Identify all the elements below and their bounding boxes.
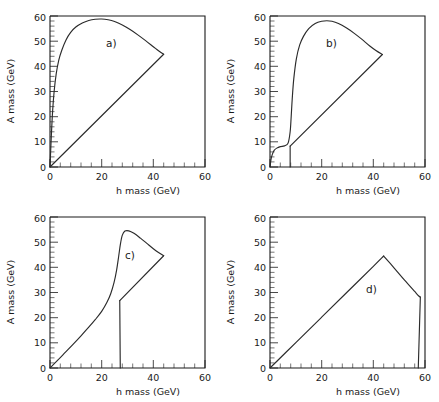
y-ticklabel-a-60: 60 <box>34 12 46 23</box>
y-ticklabel-c-30: 30 <box>34 287 46 298</box>
y-ticklabel-a-50: 50 <box>34 36 46 47</box>
x-ticklabel-a-60: 60 <box>199 171 211 182</box>
y-axis-title-a: A mass (GeV) <box>5 59 16 124</box>
panel-label-a: a) <box>106 37 117 49</box>
curve-a-lower-boundary <box>50 54 164 167</box>
y-ticklabel-d-60: 60 <box>254 213 266 224</box>
panel-a: a) 0 10 20 30 40 50 60 0 20 40 60 h mass… <box>0 0 219 201</box>
x-ticklabel-a-40: 40 <box>147 171 159 182</box>
y-ticklabel-d-30: 30 <box>254 287 266 298</box>
x-ticklabel-b-40: 40 <box>367 171 379 182</box>
y-axis-title-b: A mass (GeV) <box>225 59 236 124</box>
panel-label-d: d) <box>366 283 377 295</box>
curve-d-vertical-cut <box>418 297 420 368</box>
y-ticklabel-d-20: 20 <box>254 312 266 323</box>
x-ticklabel-d-60: 60 <box>419 372 431 383</box>
panel-d: d) 0 10 20 30 40 50 60 0 20 40 60 h mass… <box>220 201 439 402</box>
y-ticklabel-c-20: 20 <box>34 312 46 323</box>
panel-label-c: c) <box>125 249 135 261</box>
y-ticklabel-b-10: 10 <box>254 136 266 147</box>
y-ticklabel-c-60: 60 <box>34 213 46 224</box>
y-ticklabel-a-30: 30 <box>34 86 46 97</box>
y-ticklabel-d-0: 0 <box>260 363 266 374</box>
x-axis-title-a: h mass (GeV) <box>116 185 180 196</box>
x-ticklabel-c-60: 60 <box>199 372 211 383</box>
x-ticklabel-a-0: 0 <box>47 171 53 182</box>
y-ticklabel-c-50: 50 <box>34 237 46 248</box>
y-ticklabel-c-0: 0 <box>40 363 46 374</box>
y-ticklabel-a-0: 0 <box>40 162 46 173</box>
y-ticklabel-d-50: 50 <box>254 237 266 248</box>
x-ticklabel-c-20: 20 <box>96 372 108 383</box>
y-ticklabel-b-20: 20 <box>254 111 266 122</box>
y-ticklabel-c-10: 10 <box>34 337 46 348</box>
curve-d-falling-boundary <box>384 256 421 297</box>
x-ticklabel-d-20: 20 <box>316 372 328 383</box>
x-ticklabel-d-40: 40 <box>367 372 379 383</box>
x-axis-title-d: h mass (GeV) <box>336 386 400 397</box>
y-axis-title-c: A mass (GeV) <box>5 260 16 325</box>
y-ticklabel-b-50: 50 <box>254 36 266 47</box>
panel-label-b: b) <box>326 37 337 49</box>
x-ticklabel-b-60: 60 <box>419 171 431 182</box>
figure-four-panel-mass-plot: a) 0 10 20 30 40 50 60 0 20 40 60 h mass… <box>0 0 439 402</box>
y-ticklabel-a-20: 20 <box>34 111 46 122</box>
x-ticklabel-a-20: 20 <box>96 171 108 182</box>
x-axis-title-b: h mass (GeV) <box>336 185 400 196</box>
curve-c-upper-boundary <box>50 231 164 368</box>
y-ticklabel-d-10: 10 <box>254 337 266 348</box>
y-ticklabel-b-40: 40 <box>254 61 266 72</box>
y-ticklabel-b-30: 30 <box>254 86 266 97</box>
x-axis-title-c: h mass (GeV) <box>116 386 180 397</box>
y-ticklabel-b-0: 0 <box>260 162 266 173</box>
panel-c: c) 0 10 20 30 40 50 60 0 20 40 60 h mass… <box>0 201 219 402</box>
x-ticklabel-d-0: 0 <box>267 372 273 383</box>
y-ticklabel-b-60: 60 <box>254 12 266 23</box>
x-ticklabel-c-40: 40 <box>147 372 159 383</box>
curve-b-lower-boundary <box>290 55 382 147</box>
y-axis-title-d: A mass (GeV) <box>225 260 236 325</box>
curve-d-rising-boundary <box>270 256 384 368</box>
x-ticklabel-b-0: 0 <box>267 171 273 182</box>
curve-c-inner-lower-boundary <box>120 256 164 301</box>
y-ticklabel-c-40: 40 <box>34 262 46 273</box>
x-ticklabel-b-20: 20 <box>316 171 328 182</box>
y-ticklabel-a-40: 40 <box>34 61 46 72</box>
x-ticklabel-c-0: 0 <box>47 372 53 383</box>
panel-b: b) 0 10 20 30 40 50 60 0 20 40 60 h mass… <box>220 0 439 201</box>
curve-c-vertical-cut <box>120 301 121 368</box>
y-ticklabel-d-40: 40 <box>254 262 266 273</box>
y-ticklabel-a-10: 10 <box>34 136 46 147</box>
